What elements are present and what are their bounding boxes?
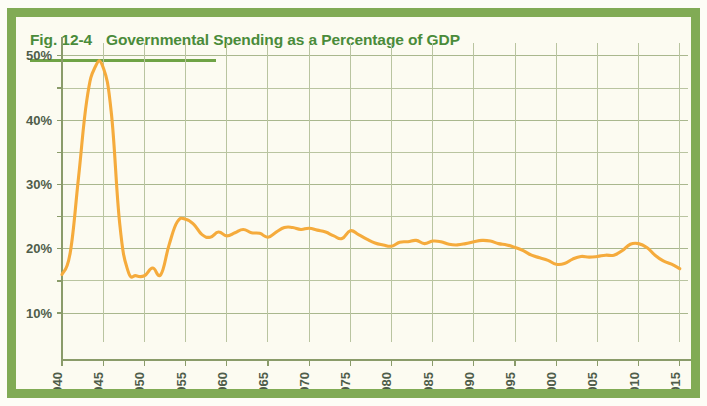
x-axis-tick-label: 1945	[91, 372, 106, 389]
chart-plot-area: 10%20%30%40%50% 194019451950195519601965…	[16, 17, 691, 389]
x-axis-tick-label: 2000	[544, 372, 559, 389]
series-line-governmental-spending	[62, 61, 680, 277]
x-axis-tick-label: 2015	[668, 372, 683, 389]
figure-root: Fig. 12-4 Governmental Spending as a Per…	[0, 0, 707, 406]
x-axis-tick-label: 1995	[503, 372, 518, 389]
y-axis-tick-label: 30%	[26, 177, 52, 192]
y-axis-labels: 10%20%30%40%50%	[26, 48, 52, 320]
x-axis-tick-label: 1965	[256, 372, 271, 389]
grid-lines	[62, 43, 688, 342]
y-axis-tick-label: 40%	[26, 113, 52, 128]
x-axis-tick-label: 1955	[174, 372, 189, 389]
axis-lines	[62, 37, 691, 360]
x-axis-tick-label: 2010	[627, 372, 642, 389]
x-axis-tick-label: 1980	[379, 372, 394, 389]
x-axis-tick-label: 1975	[338, 372, 353, 389]
data-series	[62, 61, 680, 277]
x-axis-labels: 1940194519501955196019651970197519801985…	[50, 372, 683, 389]
tick-marks	[57, 56, 680, 366]
figure-surface: Fig. 12-4 Governmental Spending as a Per…	[16, 17, 691, 389]
y-axis-tick-label: 50%	[26, 48, 52, 63]
x-axis-tick-label: 2005	[585, 372, 600, 389]
y-axis-tick-label: 20%	[26, 241, 52, 256]
x-axis-tick-label: 1940	[50, 372, 65, 389]
y-axis-tick-label: 10%	[26, 306, 52, 321]
x-axis-tick-label: 1960	[215, 372, 230, 389]
x-axis-tick-label: 1970	[297, 372, 312, 389]
x-axis-tick-label: 1985	[421, 372, 436, 389]
x-axis-tick-label: 1990	[462, 372, 477, 389]
figure-border: Fig. 12-4 Governmental Spending as a Per…	[7, 8, 700, 398]
x-axis-tick-label: 1950	[132, 372, 147, 389]
